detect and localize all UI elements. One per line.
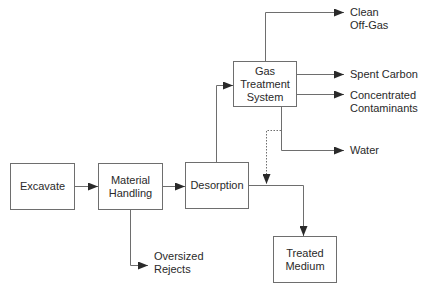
label-water: Water <box>350 144 379 157</box>
edge-desorption-to-treated-medium <box>249 186 304 237</box>
edge-to-water <box>282 107 345 151</box>
edge-desorption-to-gas-treatment <box>217 86 234 163</box>
edge-to-clean-off-gas <box>266 13 345 62</box>
label-concentrated-contaminants: Concentrated Contaminants <box>350 89 418 115</box>
edge-to-oversized-rejects <box>131 210 149 266</box>
box-treated-medium: Treated Medium <box>273 236 337 283</box>
box-material-handling: Material Handling <box>98 163 163 210</box>
box-excavate: Excavate <box>10 163 75 210</box>
box-desorption: Desorption <box>185 162 249 209</box>
label-oversized-rejects: Oversized Rejects <box>154 250 204 276</box>
label-clean-off-gas: Clean Off-Gas <box>350 6 388 32</box>
box-gas-treatment-system: Gas Treatment System <box>233 61 297 107</box>
edge-dotted-recycle <box>267 131 282 185</box>
label-spent-carbon: Spent Carbon <box>350 68 418 81</box>
